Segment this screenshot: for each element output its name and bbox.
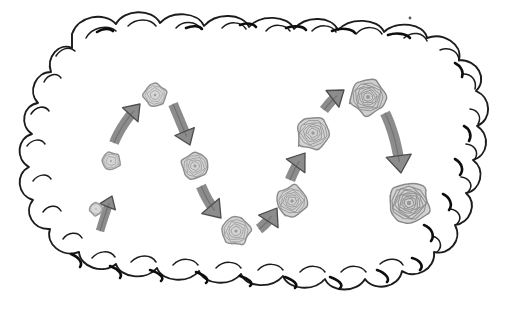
swirl-7 bbox=[298, 118, 330, 150]
illustration-canvas bbox=[0, 0, 510, 313]
swirl-9 bbox=[390, 184, 430, 224]
swirl-3-center bbox=[154, 94, 157, 97]
swirl-2 bbox=[102, 152, 120, 170]
swirl-3 bbox=[143, 83, 167, 106]
swirl-nodes-layer bbox=[0, 0, 510, 313]
swirl-5-center bbox=[234, 229, 237, 232]
swirl-6 bbox=[277, 184, 308, 217]
swirl-1 bbox=[89, 202, 103, 216]
swirl-7-center bbox=[311, 131, 315, 135]
swirl-6-center bbox=[290, 199, 293, 202]
swirl-2-center bbox=[110, 160, 112, 162]
swirl-5 bbox=[222, 217, 252, 245]
swirl-4-center bbox=[194, 165, 197, 168]
swirl-8-center bbox=[366, 95, 370, 99]
swirl-4 bbox=[181, 152, 208, 179]
swirl-1-center bbox=[95, 208, 97, 210]
ink-speck bbox=[409, 17, 412, 20]
swirl-8 bbox=[350, 79, 387, 116]
swirl-9-center bbox=[407, 201, 412, 206]
